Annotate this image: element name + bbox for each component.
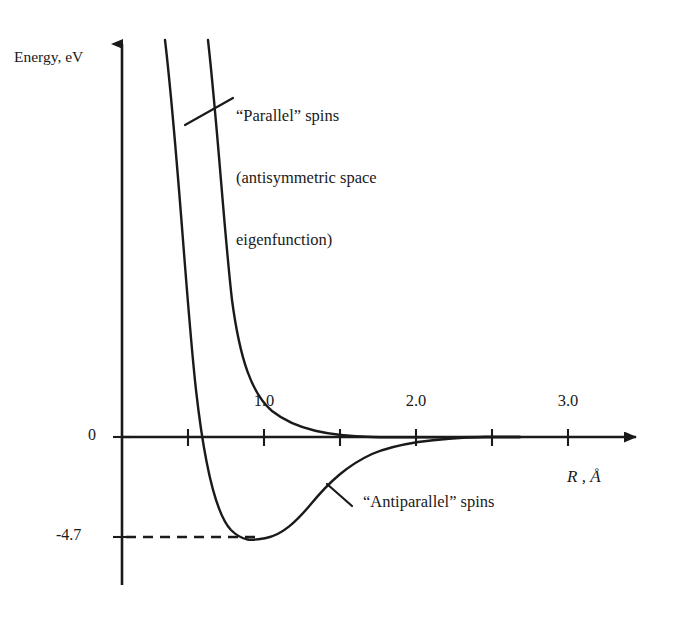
- annotation-antiparallel-spins: “Antiparallel” spins: [363, 492, 495, 513]
- x-tick-label-1: 1.0: [254, 391, 275, 411]
- y-tick-label-minimum: -4.7: [56, 525, 81, 545]
- x-axis-label: R , Å: [567, 466, 601, 487]
- annotation-parallel-line-2: (antisymmetric space: [236, 168, 377, 189]
- annotation-parallel-line-1: “Parallel” spins: [236, 106, 377, 127]
- x-tick-label-3: 3.0: [558, 391, 579, 411]
- annotation-parallel-line-3: eigenfunction): [236, 230, 377, 251]
- y-axis-label: Energy, eV: [14, 47, 83, 67]
- leader-line-antiparallel: [327, 484, 352, 506]
- leader-line-parallel: [185, 98, 233, 125]
- y-tick-label-zero: 0: [88, 425, 96, 445]
- annotation-parallel-spins: “Parallel” spins (antisymmetric space ei…: [236, 64, 377, 293]
- potential-energy-figure: Energy, eV R , Å 0 -4.7 1.0 2.0 3.0 “Par…: [0, 0, 677, 617]
- x-tick-label-2: 2.0: [406, 391, 427, 411]
